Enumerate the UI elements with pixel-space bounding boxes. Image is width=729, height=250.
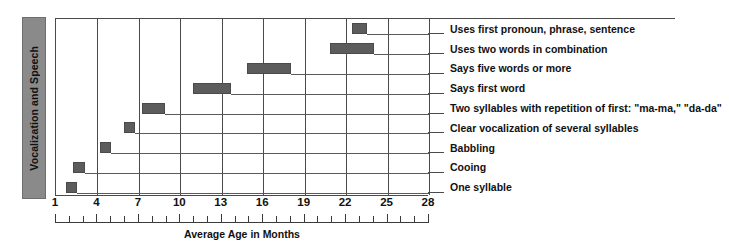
gridline-month-4 xyxy=(97,19,98,195)
minor-tick-21 xyxy=(331,216,332,223)
tick-label-1: 1 xyxy=(52,196,58,208)
major-tick-4 xyxy=(96,214,97,223)
bar-range xyxy=(352,23,367,34)
gridline-month-28 xyxy=(429,19,430,195)
minor-tick-2 xyxy=(69,216,70,223)
x-axis-ruler xyxy=(55,214,429,223)
tick-label-16: 16 xyxy=(256,196,269,208)
bar-range xyxy=(100,142,111,153)
row-label: Cooing xyxy=(450,161,486,173)
major-tick-1 xyxy=(55,214,56,223)
x-axis-tick-labels: 14710131619222528 xyxy=(0,196,729,214)
gridline-month-16 xyxy=(263,19,264,195)
row-label: Uses two words in combination xyxy=(450,43,608,55)
row-baseline xyxy=(111,153,429,154)
minor-tick-11 xyxy=(193,216,194,223)
minor-tick-15 xyxy=(248,216,249,223)
minor-tick-3 xyxy=(83,216,84,223)
major-tick-7 xyxy=(138,214,139,223)
minor-tick-27 xyxy=(414,216,415,223)
leader-line xyxy=(428,172,444,173)
row-baseline xyxy=(374,54,429,55)
gridline-month-19 xyxy=(305,19,306,195)
leader-line xyxy=(428,73,444,74)
major-tick-28 xyxy=(428,214,429,223)
major-tick-16 xyxy=(262,214,263,223)
major-tick-10 xyxy=(179,214,180,223)
x-axis-title: Average Age in Months xyxy=(55,228,429,240)
major-tick-19 xyxy=(304,214,305,223)
minor-tick-24 xyxy=(373,216,374,223)
tick-label-25: 25 xyxy=(380,196,393,208)
major-tick-13 xyxy=(221,214,222,223)
gridline-month-10 xyxy=(180,19,181,195)
leader-line xyxy=(428,113,444,114)
minor-tick-5 xyxy=(110,216,111,223)
minor-tick-23 xyxy=(359,216,360,223)
plot-area xyxy=(55,18,428,196)
gridline-month-7 xyxy=(139,19,140,195)
row-label: One syllable xyxy=(450,181,512,193)
category-band-label: Vocalization and Speech xyxy=(28,46,40,171)
minor-tick-14 xyxy=(235,216,236,223)
row-baseline xyxy=(231,94,429,95)
row-baseline xyxy=(135,133,429,134)
row-baseline xyxy=(77,193,429,194)
row-label: Uses first pronoun, phrase, sentence xyxy=(450,23,635,35)
row-baseline xyxy=(165,114,429,115)
minor-tick-9 xyxy=(166,216,167,223)
tick-label-22: 22 xyxy=(339,196,352,208)
tick-label-10: 10 xyxy=(173,196,186,208)
minor-tick-26 xyxy=(400,216,401,223)
minor-tick-18 xyxy=(290,216,291,223)
tick-label-19: 19 xyxy=(297,196,310,208)
row-label: Says five words or more xyxy=(450,62,571,74)
leader-line xyxy=(428,93,444,94)
bar-range xyxy=(124,122,135,133)
row-label: Says first word xyxy=(450,82,525,94)
minor-tick-8 xyxy=(152,216,153,223)
leader-line xyxy=(428,132,444,133)
row-baseline xyxy=(367,34,429,35)
bar-range xyxy=(142,103,165,114)
major-tick-25 xyxy=(387,214,388,223)
bar-range xyxy=(247,63,291,74)
minor-tick-12 xyxy=(207,216,208,223)
milestone-range-chart: Vocalization and Speech Uses first prono… xyxy=(0,0,729,250)
row-baseline xyxy=(85,173,429,174)
gridline-month-25 xyxy=(388,19,389,195)
category-band: Vocalization and Speech xyxy=(22,17,46,199)
minor-tick-6 xyxy=(124,216,125,223)
bar-range xyxy=(330,43,374,54)
leader-line xyxy=(428,33,444,34)
leader-line xyxy=(428,53,444,54)
major-tick-22 xyxy=(345,214,346,223)
row-baseline xyxy=(291,74,429,75)
tick-label-4: 4 xyxy=(93,196,99,208)
row-label: Clear vocalization of several syllables xyxy=(450,122,639,134)
gridline-month-13 xyxy=(222,19,223,195)
bar-range xyxy=(193,83,232,94)
bar-range xyxy=(73,162,85,173)
row-label: Babbling xyxy=(450,142,495,154)
minor-tick-20 xyxy=(317,216,318,223)
bar-range xyxy=(66,182,77,193)
tick-label-28: 28 xyxy=(422,196,435,208)
leader-line xyxy=(428,192,444,193)
row-label: Two syllables with repetition of first: … xyxy=(450,102,722,114)
leader-line xyxy=(428,152,444,153)
minor-tick-17 xyxy=(276,216,277,223)
tick-label-7: 7 xyxy=(135,196,141,208)
tick-label-13: 13 xyxy=(214,196,227,208)
